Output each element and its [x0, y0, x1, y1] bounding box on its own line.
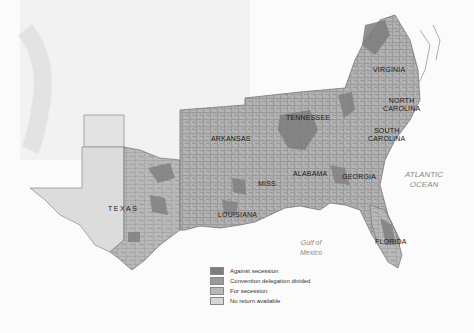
texas-west — [30, 147, 124, 252]
legend-item-divided: Convention delegation divided — [210, 276, 310, 285]
texas-panhandle — [84, 115, 124, 147]
legend-label: For secession — [230, 288, 267, 294]
state-label-florida: FLORIDA — [375, 238, 407, 246]
state-label-mississippi: MISS. — [258, 180, 278, 188]
legend-item-for: For secession — [210, 286, 310, 295]
legend-label: Against secession — [230, 268, 278, 274]
legend-swatch — [210, 277, 224, 285]
state-label-louisiana: LOUISIANA — [218, 211, 257, 219]
state-label-north-carolina: NORTH CAROLINA — [383, 97, 420, 113]
water-label-gulf: Gulf of Mexico — [300, 238, 322, 258]
state-label-tennessee: TENNESSEE — [286, 114, 330, 122]
legend-item-against: Against secession — [210, 266, 310, 275]
legend-swatch — [210, 287, 224, 295]
secession-map: VIRGINIA NORTH CAROLINA SOUTH CAROLINA T… — [0, 0, 474, 333]
water-label-atlantic: ATLANTIC OCEAN — [405, 170, 443, 190]
legend-label: Convention delegation divided — [230, 278, 310, 284]
state-label-georgia: GEORGIA — [342, 173, 376, 181]
legend-swatch — [210, 267, 224, 275]
map-legend: Against secession Convention delegation … — [210, 266, 310, 306]
legend-swatch — [210, 297, 224, 305]
state-label-alabama: ALABAMA — [293, 170, 327, 178]
state-label-texas: TEXAS — [108, 205, 138, 213]
legend-label: No return available — [230, 298, 280, 304]
state-label-south-carolina: SOUTH CAROLINA — [368, 127, 405, 143]
legend-item-no-return: No return available — [210, 296, 310, 305]
state-label-virginia: VIRGINIA — [373, 66, 405, 74]
state-label-arkansas: ARKANSAS — [211, 135, 251, 143]
